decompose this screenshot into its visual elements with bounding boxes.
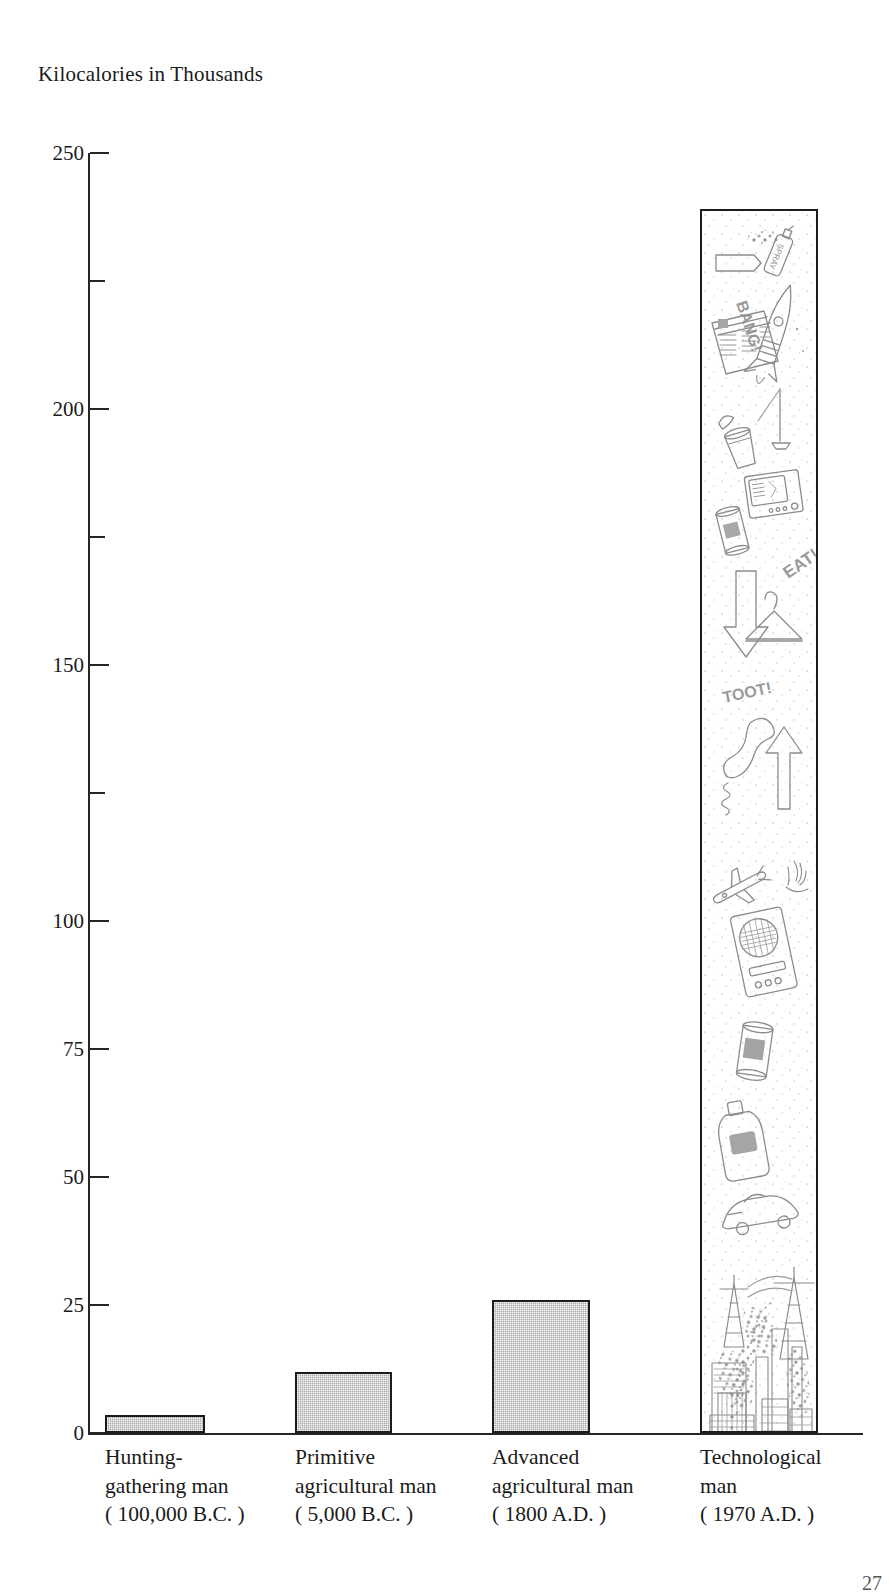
- category-label-line: man: [700, 1472, 821, 1501]
- bar-hunting-gathering-man[interactable]: [105, 1415, 205, 1433]
- category-label-line: ( 1800 A.D. ): [492, 1500, 633, 1529]
- category-label-line: Technological: [700, 1443, 821, 1472]
- y-axis-tick-label-100: 100: [53, 909, 85, 934]
- category-label-line: Hunting-: [105, 1443, 245, 1472]
- y-axis-tick-label-250: 250: [53, 141, 85, 166]
- category-label-line: agricultural man: [492, 1472, 633, 1501]
- category-label-line: Primitive: [295, 1443, 436, 1472]
- category-label-hunting-gathering-man: Hunting- gathering man ( 100,000 B.C. ): [105, 1443, 245, 1529]
- y-axis-tick-label-50: 50: [63, 1165, 84, 1190]
- y-axis-tick-labels: 2502001501007550250: [28, 110, 84, 1440]
- y-axis-title: Kilocalories in Thousands: [38, 62, 263, 87]
- y-axis-tick-label-25: 25: [63, 1293, 84, 1318]
- y-axis-tick-label-200: 200: [53, 397, 85, 422]
- bar-technological-man[interactable]: SPRAY BANG!: [700, 209, 818, 1433]
- y-axis-tick-label-0: 0: [74, 1421, 85, 1446]
- plot-area: 2502001501007550250: [88, 110, 863, 1433]
- category-label-technological-man: Technological man ( 1970 A.D. ): [700, 1443, 821, 1529]
- x-axis-baseline: [88, 1433, 863, 1435]
- technology-collage-illustration: SPRAY BANG!: [702, 211, 816, 1431]
- category-label-line: agricultural man: [295, 1472, 436, 1501]
- category-label-primitive-agricultural-man: Primitive agricultural man ( 5,000 B.C. …: [295, 1443, 436, 1529]
- bar-primitive-agricultural-man[interactable]: [295, 1372, 392, 1433]
- category-label-line: ( 5,000 B.C. ): [295, 1500, 436, 1529]
- bar-advanced-agricultural-man[interactable]: [492, 1300, 590, 1433]
- bars-layer: SPRAY BANG!: [88, 110, 863, 1433]
- category-label-line: ( 1970 A.D. ): [700, 1500, 821, 1529]
- x-axis-category-labels: Hunting- gathering man ( 100,000 B.C. ) …: [88, 1443, 878, 1563]
- page-number: 27: [862, 1572, 882, 1594]
- y-axis-tick-label-150: 150: [53, 653, 85, 678]
- y-axis-tick-label-75: 75: [63, 1037, 84, 1062]
- category-label-line: ( 100,000 B.C. ): [105, 1500, 245, 1529]
- category-label-line: gathering man: [105, 1472, 245, 1501]
- category-label-advanced-agricultural-man: Advanced agricultural man ( 1800 A.D. ): [492, 1443, 633, 1529]
- category-label-line: Advanced: [492, 1443, 633, 1472]
